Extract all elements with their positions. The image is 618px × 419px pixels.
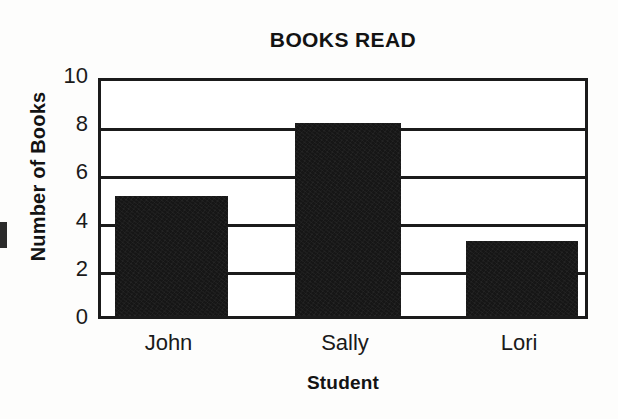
y-tick-label-4: 4: [48, 210, 88, 232]
y-tick-label-2: 2: [48, 258, 88, 280]
y-tick-label-8: 8: [48, 113, 88, 135]
x-tick-label-sally: Sally: [292, 330, 398, 356]
x-tick-label-lori: Lori: [463, 330, 575, 356]
chart-title: BOOKS READ: [98, 28, 588, 52]
bar-sally: [295, 123, 401, 316]
bar-john: [115, 196, 228, 317]
y-axis-tick-labels: 0246810: [42, 78, 88, 319]
bar-chart-figure: BOOKS READ Number of Books Student 02468…: [0, 0, 618, 419]
x-axis-title: Student: [98, 372, 588, 394]
bar-lori: [466, 241, 578, 316]
y-tick-label-6: 6: [48, 161, 88, 183]
y-tick-label-10: 10: [48, 65, 88, 87]
plot-area: [98, 78, 588, 319]
scan-edge-mark: [0, 222, 7, 248]
y-tick-label-0: 0: [48, 306, 88, 328]
x-tick-label-john: John: [112, 330, 225, 356]
